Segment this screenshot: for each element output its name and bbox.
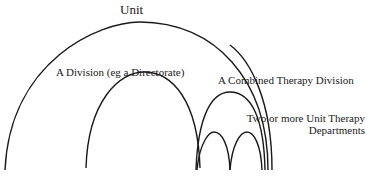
combined-arch [196,92,265,170]
unit-label: Unit [120,4,143,16]
departments-label-line2: Departments [309,124,365,136]
department-arch-1 [197,132,230,170]
unit-arch [5,22,268,170]
unit-arch-inner-edge [230,45,272,170]
departments-label-line1: Two or more Unit Therapy [247,112,365,124]
arches-diagram [0,0,370,179]
combined-division-label: A Combined Therapy Division [218,74,354,86]
division-label: A Division (eg a Directorate) [56,66,184,78]
division-arch [86,72,200,168]
department-arch-2 [230,132,262,170]
